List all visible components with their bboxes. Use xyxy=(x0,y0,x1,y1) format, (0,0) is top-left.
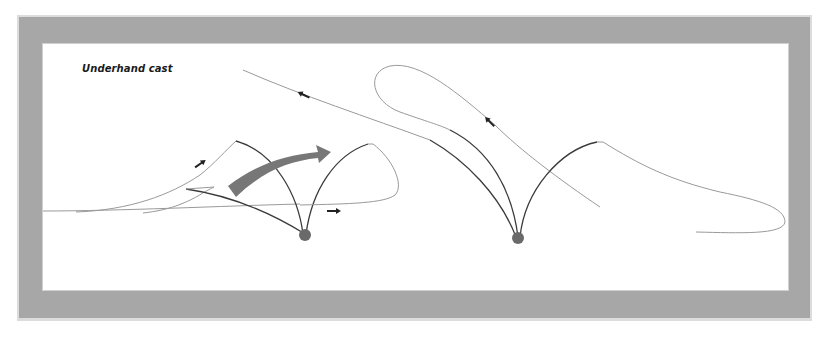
ball-pivot xyxy=(512,232,524,244)
motion-arrow-icon xyxy=(228,145,331,197)
rod-left-outer xyxy=(430,140,516,237)
rod-right xyxy=(520,142,597,237)
left-figure xyxy=(43,141,398,241)
fly-line-loop-top xyxy=(375,65,600,207)
fly-line-upper xyxy=(76,141,236,212)
rod-back xyxy=(186,189,305,234)
arrow-right-icon xyxy=(327,208,341,214)
fly-line-right xyxy=(597,142,785,233)
ball-pivot xyxy=(299,229,311,241)
arrow-up-left-icon xyxy=(296,89,310,100)
casting-diagram xyxy=(0,0,833,340)
fly-line-long xyxy=(243,70,430,140)
arrow-up-right-icon xyxy=(193,158,207,170)
rod-left-inner xyxy=(450,130,518,237)
